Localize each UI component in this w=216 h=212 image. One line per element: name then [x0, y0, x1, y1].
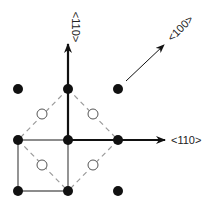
open-site [88, 109, 98, 119]
atom [113, 84, 123, 94]
atom [63, 135, 73, 145]
lattice-diagram: <110> <110> <100> [0, 0, 216, 212]
horizontal-arrow-label: <110> [171, 134, 201, 146]
open-site [37, 160, 47, 170]
atom [13, 84, 23, 94]
open-site [88, 160, 98, 170]
atom [13, 186, 23, 196]
atom [13, 135, 23, 145]
atom [113, 186, 123, 196]
atom [63, 186, 73, 196]
open-site [37, 109, 47, 119]
atom [63, 84, 73, 94]
atom [113, 135, 123, 145]
diagonal-arrow-label: <100> [165, 13, 196, 44]
diagonal-100-arrow [126, 45, 164, 81]
vertical-arrow-label: <110> [70, 12, 82, 42]
